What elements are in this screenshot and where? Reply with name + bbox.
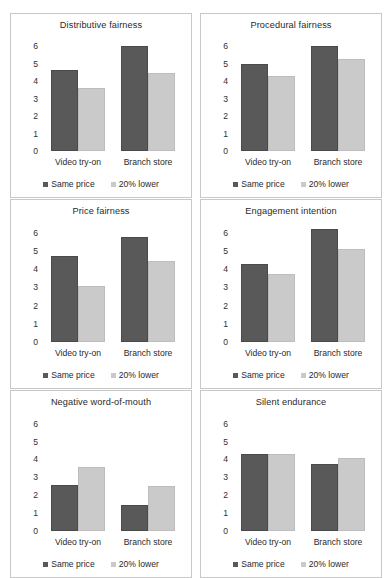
legend-label: 20% lower <box>309 370 349 380</box>
legend-label: Same price <box>241 559 284 569</box>
plot-region: 6543210 <box>211 222 373 342</box>
panel-title: Silent endurance <box>201 397 381 407</box>
legend-label: 20% lower <box>309 179 349 189</box>
bar-same-price <box>241 264 268 342</box>
legend-label: 20% lower <box>119 559 159 569</box>
y-axis-tick: 3 <box>223 473 228 482</box>
y-axis-tick: 5 <box>33 247 38 256</box>
y-axis-tick: 5 <box>223 247 228 256</box>
legend-item: 20% lower <box>111 559 159 569</box>
y-axis-tick: 3 <box>33 473 38 482</box>
chart-panel: Silent endurance6543210Video try-onBranc… <box>200 390 382 578</box>
x-axis-labels: Video try-onBranch store <box>233 537 373 547</box>
legend-swatch-icon <box>111 562 116 567</box>
y-axis-tick: 2 <box>33 112 38 121</box>
legend-label: 20% lower <box>119 370 159 380</box>
bar-lower-price <box>338 249 365 342</box>
y-axis-tick: 5 <box>223 60 228 69</box>
legend-item: Same price <box>233 370 284 380</box>
legend: Same price20% lower <box>11 179 191 189</box>
x-axis-labels: Video try-onBranch store <box>43 537 183 547</box>
x-axis-label: Video try-on <box>47 157 110 167</box>
y-axis-tick: 6 <box>33 229 38 238</box>
bar-group <box>50 36 106 151</box>
legend-swatch-icon <box>43 562 48 567</box>
bar-lower-price <box>148 261 175 342</box>
plot-region: 6543210 <box>211 413 373 531</box>
legend: Same price20% lower <box>201 559 381 569</box>
bar-same-price <box>121 46 148 151</box>
bar-same-price <box>121 237 148 342</box>
legend-swatch-icon <box>233 182 238 187</box>
legend-item: 20% lower <box>301 179 349 189</box>
y-axis-tick: 5 <box>223 437 228 446</box>
y-axis-tick: 2 <box>33 301 38 310</box>
plot-area <box>43 222 183 342</box>
legend-swatch-icon <box>111 373 116 378</box>
bar-groups <box>43 36 183 151</box>
bar-lower-price <box>78 286 105 342</box>
y-axis-tick: 5 <box>33 437 38 446</box>
y-axis-tick: 6 <box>33 419 38 428</box>
bar-group <box>240 413 296 531</box>
plot-area <box>43 413 183 531</box>
y-axis-tick: 0 <box>223 527 228 536</box>
legend-item: Same price <box>43 559 94 569</box>
bar-groups <box>43 222 183 342</box>
legend-label: Same price <box>241 370 284 380</box>
y-axis-tick: 4 <box>33 77 38 86</box>
y-axis-tick: 3 <box>33 94 38 103</box>
legend-label: Same price <box>51 370 94 380</box>
bar-same-price <box>311 229 338 342</box>
legend: Same price20% lower <box>11 370 191 380</box>
legend-swatch-icon <box>233 373 238 378</box>
x-axis-label: Branch store <box>117 157 180 167</box>
plot-area <box>233 413 373 531</box>
plot-region: 6543210 <box>21 222 183 342</box>
legend-swatch-icon <box>301 373 306 378</box>
legend-item: Same price <box>43 370 94 380</box>
plot-area <box>233 222 373 342</box>
x-axis-label: Video try-on <box>47 537 110 547</box>
bar-same-price <box>121 505 148 531</box>
chart-panel: Distributive fairness6543210Video try-on… <box>10 13 192 198</box>
bar-group <box>310 413 366 531</box>
legend-item: 20% lower <box>301 370 349 380</box>
x-axis-label: Branch store <box>307 348 370 358</box>
legend-item: Same price <box>233 179 284 189</box>
bar-same-price <box>241 64 268 151</box>
legend-item: 20% lower <box>301 559 349 569</box>
bar-same-price <box>311 464 338 531</box>
y-axis-tick: 0 <box>33 147 38 156</box>
legend-swatch-icon <box>233 562 238 567</box>
bar-groups <box>43 413 183 531</box>
bar-lower-price <box>338 458 365 531</box>
y-axis: 6543210 <box>211 36 231 151</box>
y-axis-tick: 3 <box>33 283 38 292</box>
y-axis-tick: 2 <box>223 491 228 500</box>
legend-swatch-icon <box>301 562 306 567</box>
y-axis-tick: 6 <box>223 229 228 238</box>
legend-label: 20% lower <box>119 179 159 189</box>
bar-same-price <box>51 485 78 531</box>
y-axis-tick: 3 <box>223 94 228 103</box>
y-axis-tick: 5 <box>33 60 38 69</box>
x-axis-label: Branch store <box>307 537 370 547</box>
x-axis-labels: Video try-onBranch store <box>43 157 183 167</box>
y-axis-tick: 0 <box>223 147 228 156</box>
legend-label: 20% lower <box>309 559 349 569</box>
bar-groups <box>233 222 373 342</box>
y-axis-tick: 1 <box>223 320 228 329</box>
bar-lower-price <box>268 76 295 151</box>
y-axis-tick: 4 <box>223 455 228 464</box>
y-axis: 6543210 <box>21 36 41 151</box>
bar-group <box>310 36 366 151</box>
panel-title: Price fairness <box>11 206 191 216</box>
panel-title: Negative word-of-mouth <box>11 397 191 407</box>
legend-label: Same price <box>51 559 94 569</box>
x-axis-label: Video try-on <box>237 348 300 358</box>
legend-swatch-icon <box>301 182 306 187</box>
legend-item: Same price <box>43 179 94 189</box>
x-axis-labels: Video try-onBranch store <box>233 348 373 358</box>
